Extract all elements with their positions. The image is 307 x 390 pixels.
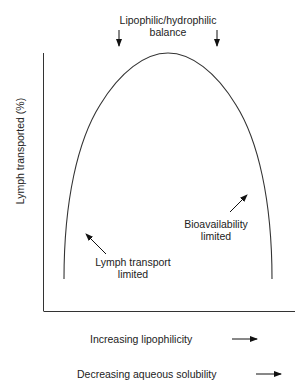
balance-title-line1: Lipophilic/hydrophilic: [100, 14, 236, 26]
balance-title: Lipophilic/hydrophilic balance: [100, 14, 236, 38]
bioavailability-line2: limited: [176, 230, 256, 242]
y-axis-label: Lymph transported (%): [14, 91, 26, 211]
bell-curve: [64, 53, 272, 279]
x-label-lipophilicity: Increasing lipophilicity: [90, 333, 192, 345]
x-label-solubility: Decreasing aqueous solubility: [77, 368, 217, 380]
lymph-limited-line1: Lymph transport: [88, 256, 178, 268]
lymph-limited-label: Lymph transport limited: [88, 256, 178, 280]
bioavailability-limited-arrow: [230, 195, 247, 212]
balance-title-line2: balance: [100, 26, 236, 38]
diagram-canvas: [0, 0, 307, 390]
bioavailability-limited-label: Bioavailability limited: [176, 218, 256, 242]
lymph-limited-arrow: [86, 234, 106, 254]
bioavailability-line1: Bioavailability: [176, 218, 256, 230]
lymph-limited-line2: limited: [88, 268, 178, 280]
